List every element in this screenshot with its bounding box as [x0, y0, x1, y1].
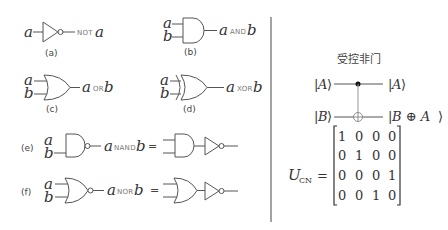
caption-e: (e)	[21, 143, 34, 153]
nor-out-a: a	[107, 181, 116, 199]
svg-text:0: 0	[372, 168, 380, 183]
not-gate-figure: a NOT a (a)	[24, 22, 104, 58]
or-op-label: OR	[93, 85, 104, 93]
svg-text:1: 1	[338, 129, 346, 144]
svg-text:0: 0	[372, 148, 380, 163]
nand-out-b: b	[136, 137, 146, 155]
svg-text:0: 0	[372, 129, 380, 144]
ket-out-bot-var: B ⊕ A	[391, 109, 430, 124]
diagram-canvas: a NOT a (a) a b a AND b (b) a b a OR b (…	[0, 0, 448, 230]
not-gate-symbol	[205, 137, 219, 155]
svg-text:⟩: ⟩	[401, 77, 406, 92]
and-out-b: b	[247, 21, 257, 39]
svg-text:0: 0	[338, 188, 346, 203]
xor-gate-figure: a b a XOR b (d)	[160, 71, 263, 114]
cnot-figure: 受控非门 | A ⟩ | A ⟩ | B ⟩ | B ⊕ A ⟩ U CN = …	[288, 52, 443, 205]
or-out-b: b	[104, 78, 114, 96]
svg-text:0: 0	[355, 188, 363, 203]
caption-c: (c)	[46, 104, 58, 114]
nand-op-label: NAND	[114, 144, 136, 152]
svg-text:⟩: ⟩	[327, 77, 332, 92]
xor-out-b: b	[253, 78, 263, 96]
inversion-bubble	[219, 189, 224, 194]
svg-text:0: 0	[338, 168, 346, 183]
nand-input-b: b	[44, 144, 54, 162]
and-out-a: a	[219, 21, 228, 39]
svg-text:1: 1	[355, 148, 363, 163]
svg-text:0: 0	[355, 129, 363, 144]
and-input-b: b	[163, 27, 173, 45]
svg-text:1: 1	[372, 188, 380, 203]
and-gate-symbol	[175, 134, 194, 157]
nand-gate-figure: (e) a b a NAND b =	[21, 131, 238, 162]
not-output-var: a	[95, 23, 104, 41]
or-gate-symbol	[174, 178, 197, 203]
matrix-left-bracket	[334, 126, 337, 205]
matrix-equals: =	[317, 168, 328, 183]
xor-op-label: XOR	[237, 85, 253, 93]
xor-out-a: a	[226, 78, 235, 96]
nor-input-b: b	[44, 188, 54, 206]
caption-b: (b)	[184, 47, 197, 57]
xor-input-b: b	[160, 84, 170, 102]
nor-op-label: NOR	[117, 188, 134, 196]
inversion-bubble	[58, 30, 63, 35]
matrix-entries: 1 0 0 0 0 1 0 0 0 0 0 1 0 0 1 0	[338, 129, 396, 203]
nand-gate-symbol	[66, 134, 85, 157]
svg-text:⟩: ⟩	[327, 109, 332, 124]
svg-text:0: 0	[388, 148, 396, 163]
svg-text:0: 0	[388, 188, 396, 203]
nor-out-b: b	[134, 181, 144, 199]
svg-text:0: 0	[355, 168, 363, 183]
nor-equals: =	[150, 184, 159, 197]
and-op-label: AND	[230, 28, 246, 36]
not-gate-symbol	[43, 22, 58, 42]
ket-in-top-var: A	[317, 77, 327, 92]
svg-text:0: 0	[388, 129, 396, 144]
svg-text:⟩: ⟩	[438, 109, 443, 124]
matrix-right-bracket	[397, 126, 400, 205]
ket-in-bot-var: B	[317, 109, 328, 124]
nand-out-a: a	[104, 137, 113, 155]
not-op-label: NOT	[77, 29, 93, 37]
nand-equals: =	[148, 140, 157, 153]
or-gate-symbol	[44, 75, 70, 100]
caption-a: (a)	[45, 48, 58, 58]
svg-text:1: 1	[388, 168, 396, 183]
not-input-label: a	[24, 23, 33, 41]
nor-gate-figure: (f) a b a NOR b =	[21, 175, 238, 206]
and-gate-figure: a b a AND b (b)	[163, 14, 257, 57]
inversion-bubble	[219, 144, 224, 149]
svg-text:0: 0	[338, 148, 346, 163]
and-gate-symbol	[183, 18, 204, 43]
cnot-title: 受控非门	[337, 52, 381, 66]
nor-gate-symbol	[65, 178, 88, 203]
or-out-a: a	[82, 78, 91, 96]
ket-out-top-var: A	[391, 77, 401, 92]
not-gate-symbol	[205, 182, 219, 200]
matrix-subscript: CN	[299, 176, 312, 185]
xor-gate-symbol	[181, 75, 207, 100]
or-input-b: b	[24, 84, 34, 102]
caption-d: (d)	[183, 104, 196, 114]
inversion-bubble	[88, 188, 93, 193]
inversion-bubble	[85, 144, 90, 149]
or-gate-figure: a b a OR b (c)	[24, 71, 114, 114]
caption-f: (f)	[21, 187, 31, 197]
